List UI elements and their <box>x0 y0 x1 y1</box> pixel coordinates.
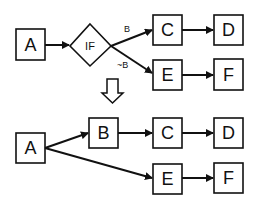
bottom-node-d: D <box>214 118 243 148</box>
bottom-node-c-label: C <box>161 123 174 143</box>
bottom-node-c: C <box>153 118 182 148</box>
top-node-a: A <box>16 29 45 60</box>
top-node-if-diamond: IF <box>70 24 111 66</box>
bottom-node-d-label: D <box>222 123 235 143</box>
top-node-f: F <box>214 59 243 90</box>
bottom-node-a-label: A <box>24 138 36 158</box>
top-node-f-label: F <box>223 65 234 85</box>
top-node-c-label: C <box>161 20 174 40</box>
top-node-d: D <box>214 15 243 45</box>
top-node-e-label: E <box>161 65 173 85</box>
bottom-diagram: A B C D E <box>16 118 243 194</box>
top-edge-label-false: ~B <box>117 60 128 70</box>
top-node-d-label: D <box>222 20 235 40</box>
bottom-node-e: E <box>153 164 182 194</box>
bottom-node-b: B <box>89 118 118 148</box>
bottom-node-f: F <box>214 163 243 193</box>
top-edge-label-true: B <box>124 24 130 34</box>
transform-down-arrow-icon <box>102 79 123 103</box>
bottom-node-b-label: B <box>97 123 109 143</box>
top-diagram: A IF B ~B C D E <box>16 15 243 90</box>
bottom-edge-a-e <box>45 148 152 178</box>
control-flow-diagram: A IF B ~B C D E <box>0 0 257 204</box>
top-node-a-label: A <box>24 35 36 55</box>
bottom-node-e-label: E <box>161 169 173 189</box>
top-edge-if-c <box>111 30 152 46</box>
bottom-node-a: A <box>16 133 45 163</box>
bottom-node-f-label: F <box>223 168 234 188</box>
top-node-if-label: IF <box>85 40 95 52</box>
bottom-edge-a-b <box>45 133 88 148</box>
top-node-c: C <box>153 15 182 45</box>
top-node-e: E <box>153 60 182 90</box>
